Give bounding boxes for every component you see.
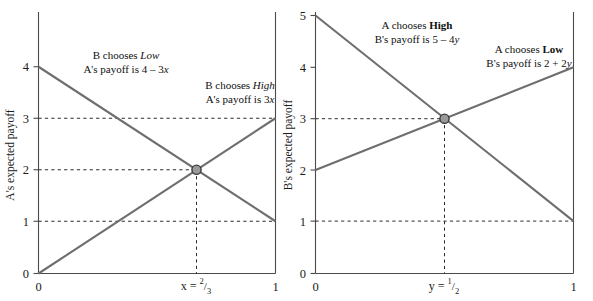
right-xtick-label-0: 0 — [312, 280, 318, 294]
right-annot-low-em: Low — [542, 43, 563, 55]
left-xlabel-numerator: 2 — [200, 276, 204, 286]
left-annot-low-pre: B chooses — [93, 49, 141, 61]
left-annot-high-formula: A's payoff is 3 — [206, 93, 270, 105]
right-annotation-a-chooses-high: A chooses High B's payoff is 5 – 4y — [352, 19, 482, 46]
right-xtick-label-1: 1 — [570, 280, 576, 294]
right-xlabel-denominator: 2 — [455, 286, 459, 296]
left-xtick-label-0: 0 — [35, 280, 41, 294]
right-annot-low-pre: A chooses — [495, 43, 543, 55]
left-annot-high-em: High — [253, 79, 275, 91]
left-xlabel-eq: = — [187, 279, 200, 293]
right-intersection-marker — [440, 114, 449, 123]
left-annotation-b-chooses-high: B chooses High A's payoff is 3x — [188, 79, 292, 106]
left-ytick-label-4: 4 — [23, 60, 30, 74]
right-ytick-label-5: 5 — [300, 9, 306, 23]
right-annotation-a-chooses-high-line1: A chooses High — [352, 19, 482, 33]
left-x-intersection-label: x = 2/3 — [181, 277, 211, 295]
right-annotation-a-chooses-low: A chooses Low B's payoff is 2 + 2y — [468, 43, 590, 70]
left-ytick-label-1: 1 — [23, 215, 29, 229]
right-panel-b-expected-payoff: 0 1 2 3 4 5 0 1 B's expected payoff A ch… — [296, 0, 593, 301]
left-xlabel-denominator: 3 — [207, 286, 211, 296]
left-ytick-label-0: 0 — [23, 267, 29, 281]
right-annotation-a-chooses-high-line2: B's payoff is 5 – 4y — [352, 33, 482, 47]
right-y-axis-title: B's expected payoff — [282, 100, 295, 191]
left-panel-a-expected-payoff: 0 1 2 3 4 0 1 A's expected payoff B choo… — [0, 0, 296, 301]
right-annot-high-formula: B's payoff is 5 – 4 — [375, 33, 455, 45]
left-annotation-b-chooses-low-line1: B chooses Low — [68, 49, 184, 63]
left-panel-plot: 0 1 2 3 4 0 1 A's expected payoff — [0, 0, 296, 301]
right-ytick-label-0: 0 — [300, 267, 306, 281]
left-ytick-label-2: 2 — [23, 163, 29, 177]
right-x-intersection-label: y = 1/2 — [429, 277, 459, 295]
right-annot-high-em: High — [429, 19, 452, 31]
left-annot-high-var: x — [269, 93, 274, 105]
left-xlabel-fraction: 2/3 — [200, 277, 212, 295]
right-annot-high-pre: A chooses — [382, 19, 430, 31]
left-line-b-high — [39, 118, 276, 273]
left-y-axis-title: A's expected payoff — [4, 109, 17, 200]
right-xlabel-numerator: 1 — [448, 276, 452, 286]
left-annotation-b-chooses-low-line2: A's payoff is 4 – 3x — [68, 63, 184, 77]
right-annotation-a-chooses-low-line2: B's payoff is 2 + 2y — [468, 57, 590, 71]
two-panel-payoff-figure: 0 1 2 3 4 0 1 A's expected payoff B choo… — [0, 0, 593, 301]
left-xtick-label-1: 1 — [272, 280, 278, 294]
left-annot-high-pre: B chooses — [205, 79, 253, 91]
right-annot-low-var: y — [567, 57, 572, 69]
left-ytick-label-3: 3 — [23, 112, 29, 126]
right-ytick-label-2: 2 — [300, 164, 306, 178]
right-ytick-label-3: 3 — [300, 112, 306, 126]
right-annot-high-var: y — [454, 33, 459, 45]
right-annot-low-formula: B's payoff is 2 + 2 — [486, 57, 566, 69]
left-annot-low-em: Low — [140, 49, 159, 61]
left-annot-low-formula: A's payoff is 4 – 3 — [83, 63, 163, 75]
left-annotation-b-chooses-high-line1: B chooses High — [188, 79, 292, 93]
right-xlabel-fraction: 1/2 — [448, 277, 460, 295]
left-intersection-marker — [192, 165, 201, 174]
left-annotation-b-chooses-high-line2: A's payoff is 3x — [188, 93, 292, 107]
left-annot-low-var: x — [164, 63, 169, 75]
right-annotation-a-chooses-low-line1: A chooses Low — [468, 43, 590, 57]
left-annotation-b-chooses-low: B chooses Low A's payoff is 4 – 3x — [68, 49, 184, 76]
right-xlabel-eq: = — [435, 279, 448, 293]
right-ytick-label-1: 1 — [300, 215, 306, 229]
right-ytick-label-4: 4 — [300, 61, 307, 75]
